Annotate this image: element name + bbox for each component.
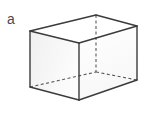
cuboid-diagram bbox=[0, 0, 146, 120]
figure-panel: a bbox=[0, 0, 146, 120]
